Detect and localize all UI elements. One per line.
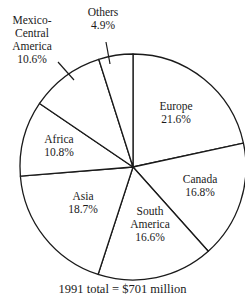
label-south-america-name2: America bbox=[120, 218, 180, 231]
label-africa-name: Africa bbox=[34, 133, 84, 146]
label-africa: Africa 10.8% bbox=[34, 133, 84, 159]
chart-caption: 1991 total = $701 million bbox=[0, 282, 245, 297]
label-africa-value: 10.8% bbox=[34, 146, 84, 159]
label-south-america-name1: South bbox=[120, 205, 180, 218]
label-europe-name: Europe bbox=[148, 100, 204, 113]
label-europe: Europe 21.6% bbox=[148, 100, 204, 126]
label-others-value: 4.9% bbox=[78, 19, 128, 32]
label-canada: Canada 16.8% bbox=[172, 173, 228, 199]
pie-slices bbox=[20, 54, 245, 280]
label-mexico-value: 10.6% bbox=[0, 53, 64, 66]
label-others: Others 4.9% bbox=[78, 6, 128, 32]
label-mexico-name1: Mexico- bbox=[0, 14, 64, 27]
label-others-name: Others bbox=[78, 6, 128, 19]
label-south-america: South America 16.6% bbox=[120, 205, 180, 244]
label-asia-name: Asia bbox=[58, 190, 108, 203]
label-canada-name: Canada bbox=[172, 173, 228, 186]
label-mexico-central-america: Mexico- Central America 10.6% bbox=[0, 14, 64, 66]
label-canada-value: 16.8% bbox=[172, 186, 228, 199]
label-asia: Asia 18.7% bbox=[58, 190, 108, 216]
label-mexico-name3: America bbox=[0, 40, 64, 53]
label-south-america-value: 16.6% bbox=[120, 231, 180, 244]
label-europe-value: 21.6% bbox=[148, 113, 204, 126]
label-asia-value: 18.7% bbox=[58, 203, 108, 216]
label-mexico-name2: Central bbox=[0, 27, 64, 40]
